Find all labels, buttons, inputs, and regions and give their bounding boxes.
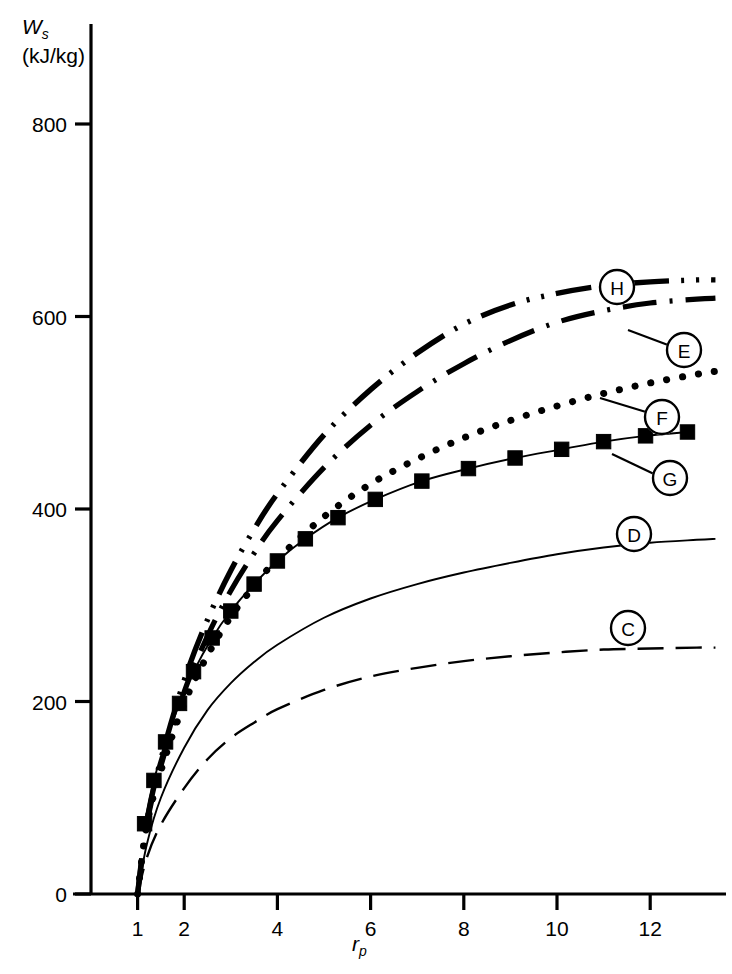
callout-leader-f	[600, 398, 646, 412]
curve-tag-label-g: G	[663, 469, 678, 490]
data-marker-square	[596, 434, 610, 448]
y-tick-label: 0	[55, 883, 67, 906]
data-marker-square	[461, 461, 475, 475]
curve-d	[138, 539, 716, 894]
curve-e	[138, 298, 716, 894]
data-marker-square	[415, 474, 429, 488]
data-curves	[138, 280, 716, 894]
y-tick-label: 600	[32, 306, 67, 329]
x-tick-label: 12	[639, 917, 662, 940]
x-tick-label: 4	[272, 917, 284, 940]
curve-tags: HEFGDC	[599, 269, 702, 646]
x-tick-label: 8	[458, 917, 470, 940]
data-marker-square	[270, 554, 284, 568]
data-marker-square	[247, 577, 261, 591]
x-tick-label: 10	[545, 917, 568, 940]
data-marker-square	[186, 664, 200, 678]
data-marker-square	[554, 442, 568, 456]
x-tick-label: 1	[132, 917, 144, 940]
axes	[73, 24, 726, 894]
chart-figure: Ws (kJ/kg) rp 0200400600800124681012 HEF…	[0, 0, 732, 974]
data-marker-square	[147, 773, 161, 787]
data-marker-square	[224, 604, 238, 618]
curve-c	[138, 648, 716, 894]
data-marker-square	[368, 492, 382, 506]
data-marker-square	[508, 451, 522, 465]
data-marker-square	[137, 817, 151, 831]
x-tick-label: 2	[178, 917, 190, 940]
curve-tag-label-h: H	[610, 278, 624, 299]
x-tick-label: 6	[365, 917, 377, 940]
data-marker-square	[298, 532, 312, 546]
callout-leader-g	[612, 454, 654, 474]
y-tick-label: 200	[32, 691, 67, 714]
curve-tag-label-d: D	[627, 525, 641, 546]
data-marker-square	[680, 425, 694, 439]
data-marker-square	[158, 735, 172, 749]
data-marker-square	[205, 631, 219, 645]
callout-leader-e	[628, 330, 668, 345]
axis-ticks	[75, 124, 650, 910]
axis-tick-labels: 0200400600800124681012	[32, 113, 662, 940]
curve-tag-label-f: F	[656, 408, 668, 429]
curve-g	[145, 432, 688, 824]
plot-area: 0200400600800124681012 HEFGDC	[0, 0, 732, 974]
y-tick-label: 800	[32, 113, 67, 136]
curve-tag-label-c: C	[621, 619, 635, 640]
curve-tag-label-e: E	[678, 341, 691, 362]
y-tick-label: 400	[32, 498, 67, 521]
data-marker-square	[172, 696, 186, 710]
data-marker-square	[331, 510, 345, 524]
curve-h	[138, 280, 716, 894]
